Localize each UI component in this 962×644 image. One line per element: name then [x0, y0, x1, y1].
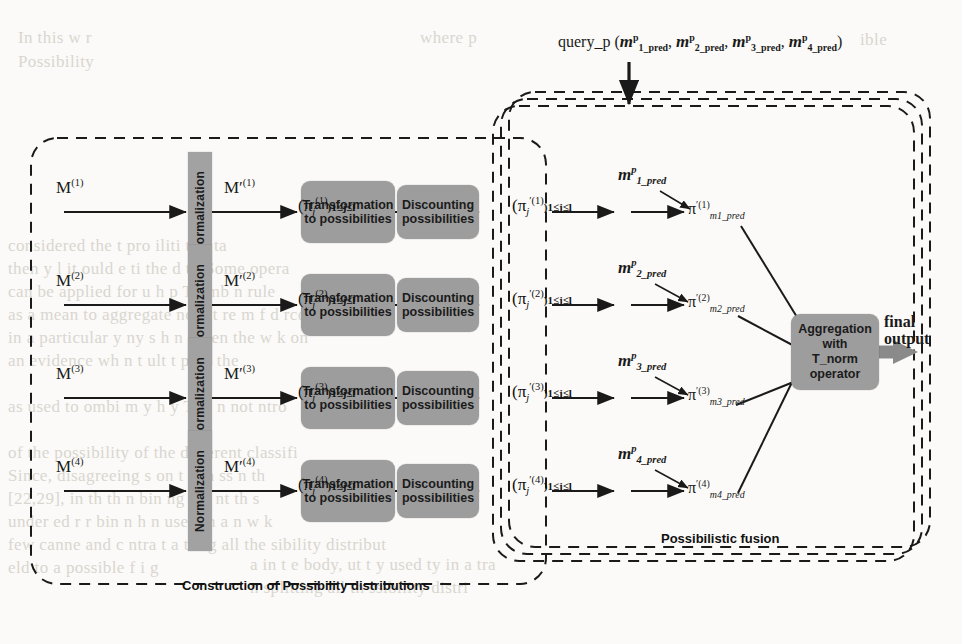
discounting-box-row-2[interactable]: Discounting possibilities: [397, 278, 479, 332]
mass-pred-label-row-4: mp4_pred: [618, 443, 666, 465]
normalized-label-row-1: M′(1): [224, 177, 255, 198]
pi-pred-label-row-4: π′(4)m4_pred: [688, 478, 745, 500]
query-label: query_p (mp1_pred, mp2_pred, mp3_pred, m…: [558, 32, 842, 54]
pi-sub-2: j: [312, 299, 315, 310]
normalized-base-4: M′: [224, 457, 243, 476]
discounting-box-row-3[interactable]: Discounting possibilities: [397, 371, 479, 425]
input-base-3: M: [56, 364, 71, 383]
pi-prime-open-2: (π: [512, 289, 526, 308]
pi-sup-1: (1): [315, 195, 327, 206]
pi-range-1: )1≤j≤l: [327, 201, 355, 213]
pi-prime-range-1: )1≤j≤l: [544, 201, 572, 213]
pi-label-row-2: (πj(2))1≤j≤l: [298, 288, 355, 310]
normalized-base-2: M′: [224, 271, 243, 290]
input-base-4: M: [56, 457, 71, 476]
pi-range-3: )1≤j≤l: [327, 387, 355, 399]
pi-prime-label-row-1: (πj′(1))1≤j≤l: [512, 195, 572, 217]
final-output-line-1: final: [884, 313, 929, 330]
normalized-label-row-3: M′(3): [224, 363, 255, 384]
pi-prime-open-3: (π: [512, 382, 526, 401]
mass-pred-label-row-2: mp2_pred: [618, 257, 666, 279]
mass-pred-label-row-3: mp3_pred: [618, 350, 666, 372]
pi-prime-sub-1: j: [526, 206, 529, 217]
pi-pred-label-row-2: π′(2)m2_pred: [688, 292, 745, 314]
discounting-label-4: Discounting possibilities: [397, 477, 479, 505]
pi-prime-sup-4: ′(4): [529, 474, 544, 485]
input-sup-3: (3): [71, 363, 83, 374]
pi-prime-range-2: )1≤j≤l: [544, 294, 572, 306]
pi-prime-sub-2: j: [526, 299, 529, 310]
figure-canvas: In this w rPossibilitywhere pibleconside…: [0, 0, 962, 644]
pi-sub-4: j: [312, 485, 315, 496]
input-base-2: M: [56, 271, 71, 290]
pi-prime-sup-3: ′(3): [529, 381, 544, 392]
input-label-row-1: M(1): [56, 177, 83, 198]
pi-sup-3: (3): [315, 381, 327, 392]
pi-prime-sub-3: j: [526, 392, 529, 403]
aggregation-line-4: operator: [810, 367, 861, 382]
normalized-base-1: M′: [224, 178, 243, 197]
pi-prime-label-row-2: (πj′(2))1≤j≤l: [512, 288, 572, 310]
normalization-box-row-4[interactable]: Normalization: [188, 431, 212, 551]
normalization-label-4: Normalization: [193, 450, 207, 532]
discounting-box-row-4[interactable]: Discounting possibilities: [397, 464, 479, 518]
normalized-sup-2: (2): [243, 270, 255, 281]
pi-prime-label-row-4: (πj′(4))1≤j≤l: [512, 474, 572, 496]
pi-prime-open-4: (π: [512, 475, 526, 494]
aggregation-line-1: Aggregation: [798, 322, 872, 337]
discounting-label-3: Discounting possibilities: [397, 384, 479, 412]
input-sup-2: (2): [71, 270, 83, 281]
query-term-1: mp1_pred: [620, 33, 668, 50]
group-caption-construction: Construction of Possibility distribution…: [182, 578, 430, 593]
normalized-label-row-2: M′(2): [224, 270, 255, 291]
final-output-line-2: output: [884, 330, 929, 347]
discounting-box-row-1[interactable]: Discounting possibilities: [397, 185, 479, 239]
aggregation-line-2: with: [823, 337, 848, 352]
normalized-sup-1: (1): [243, 177, 255, 188]
mass-pred-label-row-1: mp1_pred: [618, 164, 666, 186]
pi-prime-sup-2: ′(2): [529, 288, 544, 299]
discounting-label-1: Discounting possibilities: [397, 198, 479, 226]
aggregation-line-3: T_norm: [812, 352, 858, 367]
normalized-sup-3: (3): [243, 363, 255, 374]
pi-open-2: (π: [298, 289, 312, 308]
query-term-4: mp4_pred: [789, 33, 837, 50]
pi-sup-2: (2): [315, 288, 327, 299]
pi-label-row-3: (πj(3))1≤j≤l: [298, 381, 355, 403]
pi-sup-4: (4): [315, 474, 327, 485]
pi-prime-range-4: )1≤j≤l: [544, 480, 572, 492]
query-term-2: mp2_pred: [676, 33, 724, 50]
pi-pred-label-row-3: π′(3)m3_pred: [688, 385, 745, 407]
pi-sub-1: j: [312, 206, 315, 217]
input-label-row-4: M(4): [56, 456, 83, 477]
pi-prime-range-3: )1≤j≤l: [544, 387, 572, 399]
pi-label-row-4: (πj(4))1≤j≤l: [298, 474, 355, 496]
pi-range-2: )1≤j≤l: [327, 294, 355, 306]
query-term-3: mp3_pred: [732, 33, 780, 50]
input-base-1: M: [56, 178, 71, 197]
pi-pred-label-row-1: π′(1)m1_pred: [688, 199, 745, 221]
discounting-label-2: Discounting possibilities: [397, 291, 479, 319]
pi-open-1: (π: [298, 196, 312, 215]
normalized-base-3: M′: [224, 364, 243, 383]
group-caption-fusion: Possibilistic fusion: [661, 531, 779, 546]
normalized-sup-4: (4): [243, 456, 255, 467]
pi-open-4: (π: [298, 475, 312, 494]
pi-prime-label-row-3: (πj′(3))1≤j≤l: [512, 381, 572, 403]
query-suffix: ): [837, 33, 842, 50]
input-label-row-3: M(3): [56, 363, 83, 384]
normalization-label-3: Normalization: [193, 357, 207, 439]
pi-range-4: )1≤j≤l: [327, 480, 355, 492]
pi-prime-open-1: (π: [512, 196, 526, 215]
query-prefix: query_p (: [558, 33, 620, 50]
pi-prime-sub-4: j: [526, 485, 529, 496]
normalization-label-1: Normalization: [193, 171, 207, 253]
pi-prime-sup-1: ′(1): [529, 195, 544, 206]
normalization-label-2: Normalization: [193, 264, 207, 346]
normalized-label-row-4: M′(4): [224, 456, 255, 477]
pi-sub-3: j: [312, 392, 315, 403]
pi-open-3: (π: [298, 382, 312, 401]
input-label-row-2: M(2): [56, 270, 83, 291]
input-sup-1: (1): [71, 177, 83, 188]
aggregation-box[interactable]: Aggregation with T_norm operator: [791, 314, 879, 390]
